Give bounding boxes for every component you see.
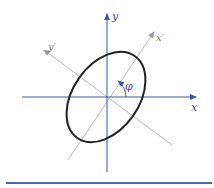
y-prime-label: y′ — [47, 41, 57, 52]
angle-label: φ — [125, 80, 133, 93]
y-axis-label: y — [111, 10, 119, 23]
x-axis-label: x — [191, 101, 198, 114]
bottom-rule — [6, 182, 212, 184]
ellipse-diagram: y x x′ y′ φ — [0, 0, 214, 188]
x-prime-label: x′ — [156, 32, 165, 43]
